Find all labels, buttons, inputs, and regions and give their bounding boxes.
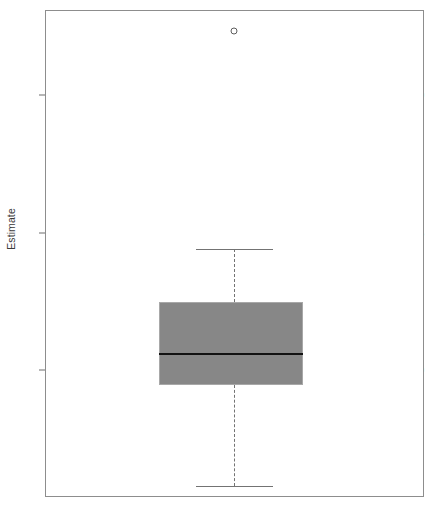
box-iqr: [159, 302, 303, 385]
whisker-cap-lower: [196, 486, 273, 487]
y-axis-title: Estimate: [0, 0, 22, 505]
median-line: [159, 353, 303, 355]
y-axis-title-text: Estimate: [5, 208, 17, 250]
whisker-upper: [234, 249, 235, 302]
boxplot-figure: Estimate 0.00.51.0: [0, 0, 432, 505]
whisker-lower: [234, 385, 235, 486]
outlier-point: [231, 27, 238, 34]
whisker-cap-upper: [196, 249, 273, 250]
